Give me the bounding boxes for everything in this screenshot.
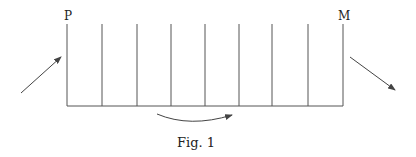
figure-caption: Fig. 1 xyxy=(156,136,236,149)
label-m: M xyxy=(338,10,350,22)
incoming-arrow-icon xyxy=(21,57,61,93)
diagram-canvas xyxy=(0,0,416,157)
outgoing-arrow-icon xyxy=(350,57,395,90)
comb-structure xyxy=(67,24,343,106)
curved-arrow-icon xyxy=(157,114,232,121)
label-p: P xyxy=(64,10,72,22)
